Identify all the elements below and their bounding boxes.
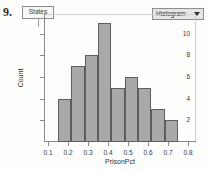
- histogram-bar[interactable]: [111, 88, 124, 142]
- plot-right-border: [195, 14, 196, 142]
- histogram-bar[interactable]: [85, 55, 98, 142]
- histogram-panel: 9. States Histogram 2468100.10.20.30.40.…: [0, 0, 208, 170]
- histogram-bar[interactable]: [151, 109, 164, 142]
- x-axis-title: PrisonPct: [44, 158, 196, 165]
- x-axis-tick-label: 0.6: [143, 150, 152, 157]
- y-axis-tick-label: 6: [176, 74, 190, 81]
- x-axis-tick: [108, 142, 109, 146]
- y-axis-title: Count: [17, 69, 24, 88]
- x-axis-tick: [88, 142, 89, 146]
- y-axis-tick: [40, 99, 44, 100]
- y-axis-tick-label: 8: [176, 52, 190, 59]
- plot-top-border: [44, 14, 196, 15]
- y-axis-tick: [40, 34, 44, 35]
- x-axis-tick: [168, 142, 169, 146]
- x-axis-tick: [188, 142, 189, 146]
- x-axis-tick: [68, 142, 69, 146]
- histogram-bar[interactable]: [98, 23, 111, 142]
- states-connector-line: [38, 19, 39, 27]
- y-axis-tick: [40, 120, 44, 121]
- histogram-bar[interactable]: [71, 66, 84, 142]
- y-axis-tick: [40, 55, 44, 56]
- question-number: 9.: [3, 5, 12, 20]
- x-axis-tick-label: 0.7: [163, 150, 172, 157]
- x-axis-tick-label: 0.1: [43, 150, 52, 157]
- x-axis-tick-label: 0.2: [63, 150, 72, 157]
- histogram-bar[interactable]: [58, 99, 71, 142]
- x-axis-tick: [128, 142, 129, 146]
- y-axis-line: [44, 14, 45, 142]
- histogram-bar[interactable]: [138, 88, 151, 142]
- x-axis-tick: [48, 142, 49, 146]
- y-axis-tick-label: 4: [176, 95, 190, 102]
- x-axis-tick: [148, 142, 149, 146]
- x-axis-tick-label: 0.8: [183, 150, 192, 157]
- y-axis-tick-label: 10: [176, 30, 190, 37]
- histogram-bar[interactable]: [165, 120, 178, 142]
- x-axis-tick-label: 0.5: [123, 150, 132, 157]
- x-axis-tick-label: 0.3: [83, 150, 92, 157]
- plot-area: 2468100.10.20.30.40.50.60.70.8: [44, 14, 196, 142]
- histogram-bar[interactable]: [125, 77, 138, 142]
- y-axis-tick: [40, 77, 44, 78]
- y-axis-tick-label: 2: [176, 117, 190, 124]
- x-axis-tick-label: 0.4: [103, 150, 112, 157]
